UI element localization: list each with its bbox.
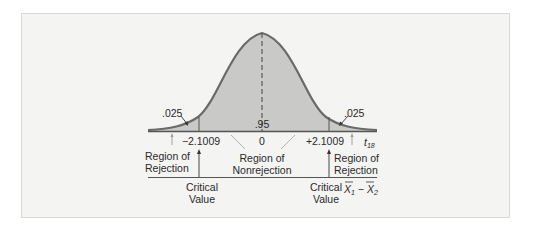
- right-critical-line1: Critical: [310, 181, 342, 193]
- nonrejection-line2: Nonrejection: [233, 164, 292, 176]
- left-rejection-line2: Rejection: [145, 162, 190, 174]
- arrow-up-icon: [197, 149, 201, 154]
- nonrejection-pointer-right: [281, 135, 295, 149]
- left-critical-line2: Value: [186, 193, 218, 205]
- x2-subscript: 2: [374, 189, 378, 196]
- left-critical-value-label: Critical Value: [186, 181, 218, 205]
- left-rejection-label: Region of Rejection: [145, 150, 190, 174]
- x2-symbol: X: [367, 183, 374, 195]
- nonrejection-line1: Region of: [233, 152, 292, 164]
- right-rejection-label: Region of Rejection: [334, 152, 379, 176]
- right-rejection-line2: Rejection: [334, 164, 379, 176]
- t-distribution-chart: [0, 0, 549, 234]
- difference-axis-label: X1 − X2: [344, 183, 378, 199]
- nonrejection-pointer-left: [231, 135, 245, 149]
- tick-left-critical: −2.1009: [182, 135, 220, 147]
- arrow-up-icon: [327, 149, 331, 154]
- left-tail-area: .025: [162, 107, 182, 119]
- nonrejection-label: Region of Nonrejection: [233, 152, 292, 176]
- left-rejection-line1: Region of: [145, 150, 190, 162]
- tick-right-critical: +2.1009: [306, 135, 344, 147]
- x1-symbol: X: [344, 183, 351, 195]
- distribution-label: t18: [364, 136, 375, 152]
- right-critical-line2: Value: [310, 193, 342, 205]
- right-critical-value-label: Critical Value: [310, 181, 342, 205]
- right-tail-area: .025: [344, 107, 364, 119]
- tick-center: 0: [259, 135, 265, 147]
- center-area: .95: [255, 118, 270, 130]
- left-critical-line1: Critical: [186, 181, 218, 193]
- right-rejection-line1: Region of: [334, 152, 379, 164]
- arrow-up-icon: [351, 133, 354, 137]
- arrow-up-icon: [171, 133, 174, 137]
- distribution-df: 18: [367, 142, 375, 149]
